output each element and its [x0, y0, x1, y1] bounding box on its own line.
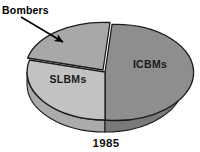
slbms-label: SLBMs: [49, 73, 86, 85]
pie-slice-icbms[interactable]: [105, 24, 194, 120]
year-label: 1985: [92, 137, 119, 149]
pie-chart-canvas: Bombers SLBMs ICBMs 1985: [0, 0, 200, 152]
bombers-label: Bombers: [2, 4, 49, 16]
pie-chart-figure: Bombers SLBMs ICBMs 1985: [0, 0, 200, 152]
bombers-leader-line: [21, 17, 63, 42]
pie-top-faces: [27, 22, 194, 120]
icbms-label: ICBMs: [133, 58, 167, 70]
